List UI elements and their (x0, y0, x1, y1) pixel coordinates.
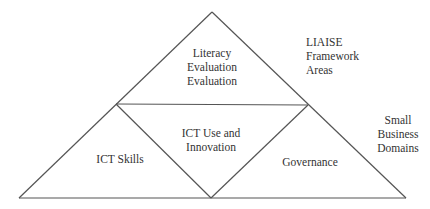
region-bottom-left-label: ICT Skills (80, 152, 160, 166)
region-bottom-center-label: ICT Use and Innovation (166, 126, 256, 154)
framework-areas-annotation: LIAISE Framework Areas (306, 35, 386, 77)
mid-horizontal-edge (116, 104, 308, 105)
triangle-diagram (0, 0, 430, 209)
region-top-label: Literacy Evaluation Evaluation (162, 46, 262, 88)
business-domains-annotation: Small Business Domains (366, 113, 430, 155)
region-bottom-right-label: Governance (270, 155, 350, 169)
